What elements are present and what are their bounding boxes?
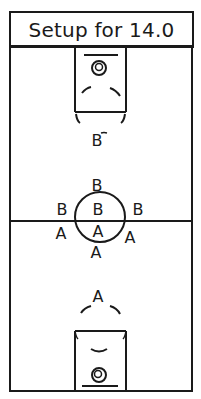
bottom-key xyxy=(75,306,126,391)
top-arc-right xyxy=(121,114,125,123)
top-lane-arc-right xyxy=(110,88,120,96)
player-a-center-right: A xyxy=(125,228,136,247)
player-b-center-left: B xyxy=(57,200,68,219)
player-b-center-right: B xyxy=(133,200,144,219)
top-arc-left xyxy=(76,114,80,123)
player-b-center-middle: B xyxy=(93,200,104,219)
bottom-lane-arc xyxy=(91,349,107,352)
player-a-bottom-lane: A xyxy=(93,287,104,306)
top-key xyxy=(75,46,126,123)
bottom-basket-icon xyxy=(92,368,106,382)
player-b-center-top: B xyxy=(92,176,103,195)
bottom-arc-right xyxy=(110,306,120,314)
player-a-center-middle: A xyxy=(93,222,104,241)
bottom-arc-left xyxy=(81,306,91,313)
top-basket-icon xyxy=(92,61,106,75)
top-lane-arc-left xyxy=(82,87,91,93)
player-b-top-lane: B xyxy=(92,131,103,150)
basketball-court: B B B B B A A A A A xyxy=(0,0,201,399)
player-a-center-left: A xyxy=(56,224,67,243)
player-a-center-bottom: A xyxy=(91,243,102,262)
